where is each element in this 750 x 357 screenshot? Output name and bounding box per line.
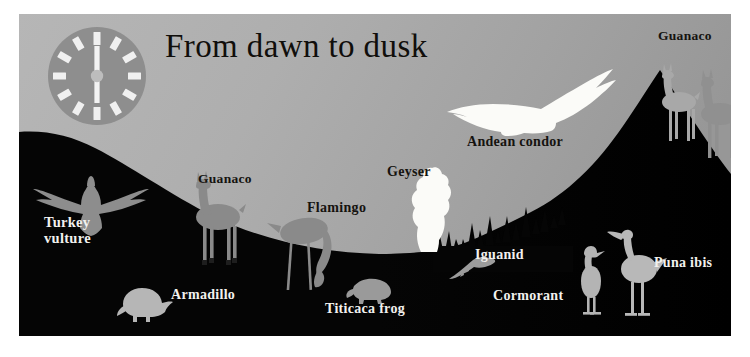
clock-dial xyxy=(48,27,146,125)
illustration-canvas: Turkey vulture Guanaco Armadillo Flaming… xyxy=(0,0,750,357)
page-title: From dawn to dusk xyxy=(165,28,428,65)
scene: Turkey vulture Guanaco Armadillo Flaming… xyxy=(19,14,731,336)
clock-center-pin xyxy=(91,70,103,82)
